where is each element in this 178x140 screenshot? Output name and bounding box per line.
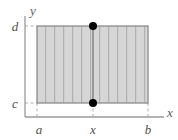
slice-endpoint-dot-top [89,22,97,30]
x-axis-label: x [166,105,173,120]
y-tick-label-d: d [12,19,19,34]
y-tick-label-c: c [12,96,18,111]
x-tick-label-a: a [36,122,43,137]
figure-container: y x d c a x b [0,0,178,140]
rectangle-region-figure: y x d c a x b [0,0,178,140]
x-tick-label-b: b [145,122,152,137]
x-tick-label-x: x [89,122,96,137]
y-axis-label: y [28,3,36,18]
slice-endpoint-dot-bottom [89,99,97,107]
